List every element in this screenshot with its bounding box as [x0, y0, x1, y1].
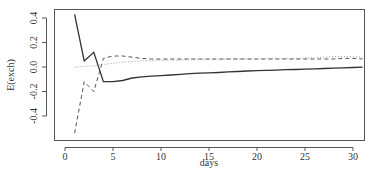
x-tick-label: 20: [252, 151, 262, 162]
x-tick-label: 0: [63, 151, 68, 162]
x-tick-label: 25: [300, 151, 310, 162]
x-tick-label: 5: [111, 151, 116, 162]
y-tick-label: 0.4: [28, 12, 39, 25]
y-tick-label: 0.2: [28, 36, 39, 49]
y-axis: -0.4-0.20.00.20.4: [28, 12, 47, 124]
y-tick-label: 0.0: [28, 61, 39, 74]
x-tick-label: 30: [348, 151, 358, 162]
series-solid-line: [75, 14, 363, 81]
series-dotted-line: [75, 57, 363, 67]
line-chart: -0.4-0.20.00.20.4 051015202530 days E(ex…: [0, 0, 373, 171]
y-axis-title: E(exch): [5, 59, 17, 91]
series-layer: [75, 14, 363, 133]
y-tick-label: -0.4: [28, 108, 39, 124]
series-dashed-line: [75, 56, 363, 133]
x-tick-label: 10: [156, 151, 166, 162]
y-tick-label: -0.2: [28, 84, 39, 100]
x-axis-title: days: [200, 157, 218, 168]
